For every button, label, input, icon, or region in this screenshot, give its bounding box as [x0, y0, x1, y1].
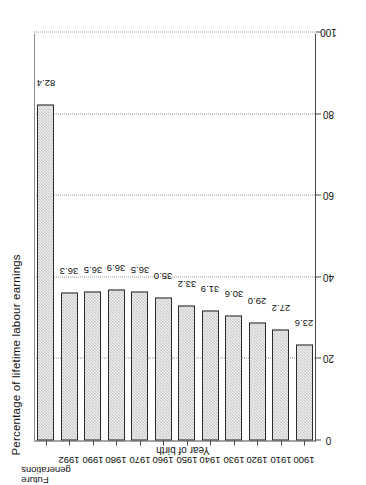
bar-value-label: 35.0	[154, 270, 173, 281]
value-axis-tick	[316, 357, 321, 358]
category-axis-tick	[69, 440, 70, 445]
chart-title: Percentage of lifetime labour earnings	[10, 254, 22, 455]
category-axis-tick	[187, 440, 188, 445]
bar-value-label: 36.3	[60, 265, 79, 276]
bar-value-label: 30.6	[224, 288, 243, 299]
bar-item[interactable]: 82.4	[37, 32, 54, 440]
bar[interactable]	[178, 305, 195, 440]
category-axis-tick	[140, 440, 141, 445]
value-axis-label: 40	[323, 271, 334, 282]
category-axis-label: 1940	[200, 455, 221, 465]
bar-item[interactable]: 30.6	[225, 32, 242, 440]
chart-figure: Percentage of lifetime labour earnings Y…	[0, 0, 366, 485]
bar-value-label: 23.6	[295, 317, 314, 328]
bar-value-label: 29.0	[248, 295, 267, 306]
bar[interactable]	[225, 315, 242, 440]
value-axis-label: 100	[320, 27, 337, 38]
category-axis-label: 1930	[223, 455, 244, 465]
value-axis-label: 20	[323, 353, 334, 364]
value-axis-tick	[316, 276, 321, 277]
bar[interactable]	[61, 292, 78, 440]
bar-item[interactable]: 29.0	[249, 32, 266, 440]
category-axis-label: 1992	[59, 455, 80, 465]
bar[interactable]	[296, 344, 313, 440]
bar-item[interactable]: 36.5	[84, 32, 101, 440]
category-axis-label: 1920	[247, 455, 268, 465]
bar-value-label: 36.5	[83, 264, 102, 275]
bar[interactable]	[37, 104, 54, 440]
bar[interactable]	[84, 291, 101, 440]
bar-value-label: 33.2	[177, 278, 196, 289]
bar-item[interactable]: 31.9	[202, 32, 219, 440]
category-axis-label: 1980	[106, 455, 127, 465]
plot-area: 020406080100 190019101920193019401950196…	[34, 33, 316, 441]
bar[interactable]	[272, 329, 289, 440]
category-axis-label: 1900	[294, 455, 315, 465]
bar-item[interactable]: 33.2	[178, 32, 195, 440]
bar-value-label: 36.9	[107, 263, 126, 274]
bar-value-label: 36.5	[130, 264, 149, 275]
bar-item[interactable]: 27.2	[272, 32, 289, 440]
category-axis-label: 1910	[270, 455, 291, 465]
value-axis-tick	[316, 194, 321, 195]
value-axis-label: 80	[323, 108, 334, 119]
bar[interactable]	[249, 322, 266, 440]
category-axis-label: 1990	[82, 455, 103, 465]
value-axis-tick	[316, 439, 321, 440]
bar-item[interactable]: 36.5	[131, 32, 148, 440]
bar-value-label: 31.9	[201, 283, 220, 294]
rotated-plot-frame: Percentage of lifetime labour earnings Y…	[0, 0, 366, 485]
bar-item[interactable]: 35.0	[155, 32, 172, 440]
category-axis-tick	[93, 440, 94, 445]
bar-value-label: 82.4	[36, 77, 55, 88]
bar[interactable]	[108, 289, 125, 440]
category-axis-tick	[234, 440, 235, 445]
category-axis-tick	[116, 440, 117, 445]
category-axis-tick	[163, 440, 164, 445]
category-axis-label: 1970	[129, 455, 150, 465]
category-axis-label: 1950	[176, 455, 197, 465]
category-axis-tick	[257, 440, 258, 445]
category-axis-tick	[46, 440, 47, 445]
bar-item[interactable]: 36.9	[108, 32, 125, 440]
value-axis-label: 0	[326, 435, 332, 446]
category-axis-tick	[281, 440, 282, 445]
bar[interactable]	[155, 297, 172, 440]
value-axis-tick	[316, 113, 321, 114]
bar[interactable]	[131, 291, 148, 440]
bar[interactable]	[202, 310, 219, 440]
bar-item[interactable]: 36.3	[61, 32, 78, 440]
category-axis-label: Futuregenerations	[21, 464, 71, 484]
bar-value-label: 27.2	[271, 302, 290, 313]
value-axis-label: 60	[323, 190, 334, 201]
plot-top-border	[34, 33, 35, 440]
category-axis-label: 1960	[153, 455, 174, 465]
category-axis-tick	[304, 440, 305, 445]
category-axis-tick	[210, 440, 211, 445]
bar-item[interactable]: 23.6	[296, 32, 313, 440]
